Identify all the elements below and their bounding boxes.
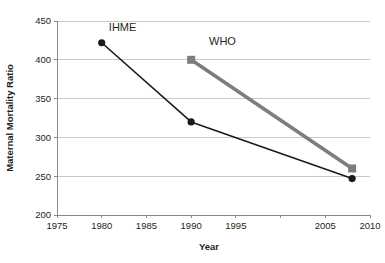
y-tick-label: 450 xyxy=(35,15,51,26)
y-tick-label: 200 xyxy=(35,209,51,220)
x-tick-label: 1995 xyxy=(225,220,246,231)
x-tick-label: 1985 xyxy=(136,220,157,231)
x-tick-label: 2005 xyxy=(315,220,336,231)
y-tick-label: 350 xyxy=(35,93,51,104)
y-tick-label: 250 xyxy=(35,171,51,182)
x-tick-label: 1975 xyxy=(46,220,67,231)
data-point-ihme xyxy=(188,118,195,125)
x-tick-label: 2010 xyxy=(359,220,380,231)
y-axis-title: Maternal Mortality Ratio xyxy=(4,64,15,172)
data-point-ihme xyxy=(98,39,105,46)
series-label-who: WHO xyxy=(209,35,236,47)
series-label-ihme: IHME xyxy=(109,21,136,33)
y-tick-label: 300 xyxy=(35,132,51,143)
maternal-mortality-line-chart: 200250300350400450 197519801985199019952… xyxy=(0,0,385,263)
chart-container: 200250300350400450 197519801985199019952… xyxy=(0,0,385,263)
data-point-who xyxy=(187,56,195,64)
x-tick-label: 1980 xyxy=(91,220,112,231)
data-point-ihme xyxy=(349,175,356,182)
y-tick-label: 400 xyxy=(35,54,51,65)
x-tick-label: 1990 xyxy=(181,220,202,231)
data-point-who xyxy=(348,164,356,172)
x-axis-title: Year xyxy=(199,241,219,252)
